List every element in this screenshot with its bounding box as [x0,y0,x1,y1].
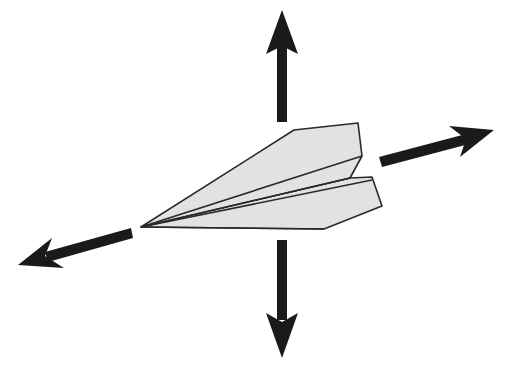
arrow-backward-icon [18,228,133,268]
arrow-up-icon [266,10,298,122]
arrow-down-icon [266,240,298,358]
diagram-canvas [0,0,515,376]
force-diagram [0,0,515,376]
paper-airplane-icon [141,123,382,229]
arrow-forward-icon [379,126,494,167]
